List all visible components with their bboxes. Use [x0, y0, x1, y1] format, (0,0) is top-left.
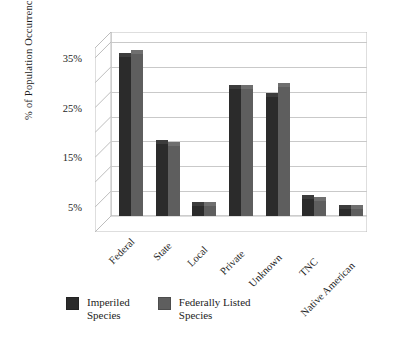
bar-top-cap [314, 197, 326, 201]
x-axis-label-unknown: Unknown [246, 252, 283, 289]
bar-local-series-0 [192, 206, 204, 216]
bar-top-cap [266, 93, 278, 97]
bar-series-container [95, 32, 367, 232]
x-axis-label-state: State [151, 240, 174, 263]
bar-top-cap [278, 83, 290, 87]
x-axis-label-federal: Federal [107, 236, 137, 266]
bar-face [192, 206, 204, 216]
legend-label: Federally Listed Species [179, 296, 251, 322]
y-axis-tick-label: 35% [63, 52, 82, 63]
bar-tnc-series-0 [302, 199, 314, 216]
bar-state-series-0 [156, 144, 168, 216]
bar-federal-series-0 [119, 57, 131, 216]
legend-swatch-icon [158, 297, 171, 310]
bar-top-cap [302, 195, 314, 199]
bar-chart: % of Population Occurrences 5%15%25%35% … [0, 0, 412, 339]
bar-top-cap [156, 140, 168, 144]
bar-face [168, 146, 180, 216]
bar-top-cap [204, 202, 216, 206]
bar-face [119, 57, 131, 216]
bar-face [314, 201, 326, 216]
y-axis-tick-label: 15% [63, 152, 82, 163]
legend-label: Imperiled Species [87, 296, 130, 322]
bar-top-cap [192, 202, 204, 206]
bar-top-cap [351, 205, 363, 209]
bar-tnc-series-1 [314, 201, 326, 216]
legend-swatch-icon [66, 297, 79, 310]
bar-unknown-series-0 [266, 97, 278, 216]
bar-state-series-1 [168, 146, 180, 216]
x-axis-label-tnc: TNC [297, 256, 320, 279]
bar-native-american-series-0 [339, 209, 351, 216]
plot-area: 5%15%25%35% [95, 32, 367, 232]
chart-legend: Imperiled SpeciesFederally Listed Specie… [66, 296, 251, 322]
legend-item-0: Imperiled Species [66, 296, 130, 322]
bar-face [241, 89, 253, 216]
bar-face [266, 97, 278, 216]
bar-top-cap [229, 85, 241, 89]
y-axis-tick-label: 5% [68, 202, 82, 213]
y-axis-title: % of Population Occurrences [23, 0, 34, 146]
bar-face [229, 89, 241, 216]
bar-top-cap [119, 53, 131, 57]
bar-federal-series-1 [131, 54, 143, 216]
bar-unknown-series-1 [278, 87, 290, 216]
bar-private-series-0 [229, 89, 241, 216]
bar-private-series-1 [241, 89, 253, 216]
x-axis-label-private: Private [218, 248, 247, 277]
bar-local-series-1 [204, 206, 216, 216]
bar-face [351, 209, 363, 216]
bar-face [278, 87, 290, 216]
bar-face [339, 209, 351, 216]
legend-item-1: Federally Listed Species [158, 296, 251, 322]
y-axis-tick-label: 25% [63, 102, 82, 113]
bar-top-cap [241, 85, 253, 89]
bar-top-cap [339, 205, 351, 209]
bar-top-cap [131, 50, 143, 54]
bar-face [302, 199, 314, 216]
bar-face [131, 54, 143, 216]
bar-face [156, 144, 168, 216]
bar-top-cap [168, 142, 180, 146]
bar-native-american-series-1 [351, 209, 363, 216]
bar-face [204, 206, 216, 216]
x-axis-label-local: Local [186, 244, 211, 269]
